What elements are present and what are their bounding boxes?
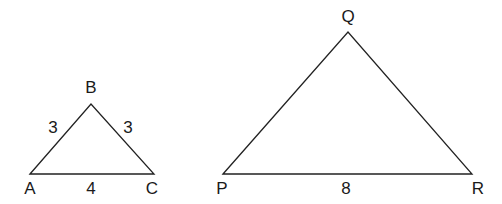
- side-length-pr: 8: [341, 179, 350, 198]
- vertex-label-r: R: [472, 179, 484, 198]
- triangle-abc-outline: [30, 104, 154, 174]
- vertex-label-q: Q: [341, 7, 354, 26]
- triangle-abc: B A C 3 3 4: [24, 78, 158, 198]
- vertex-label-a: A: [24, 179, 36, 198]
- side-length-ac: 4: [86, 179, 95, 198]
- vertex-label-b: B: [85, 78, 96, 97]
- similar-triangles-diagram: B A C 3 3 4 Q P R 8: [0, 0, 502, 204]
- side-length-bc: 3: [123, 118, 132, 137]
- triangle-pqr: Q P R 8: [216, 7, 484, 198]
- vertex-label-p: P: [216, 179, 227, 198]
- vertex-label-c: C: [146, 179, 158, 198]
- side-length-ab: 3: [48, 118, 57, 137]
- triangle-pqr-outline: [223, 32, 472, 174]
